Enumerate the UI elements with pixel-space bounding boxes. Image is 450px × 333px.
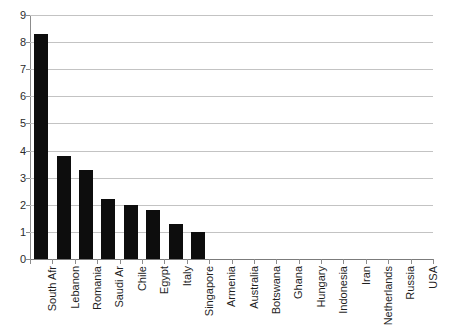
x-axis-label-slot: USA xyxy=(411,266,433,333)
y-axis-tick-label: 8 xyxy=(2,37,26,48)
bar-slot xyxy=(411,15,433,259)
bar-slot xyxy=(209,15,231,259)
y-axis-tick-label: 1 xyxy=(2,226,26,237)
x-axis-tick-mark xyxy=(388,259,389,264)
x-axis-label-slot: Indonesia xyxy=(321,266,343,333)
x-axis-tick-mark xyxy=(366,259,367,264)
x-axis-tick-mark xyxy=(187,259,188,264)
bar-chart: 0123456789 South AfrLebanonRomaniaSaudi … xyxy=(0,0,450,333)
x-axis-label-slot: Botswana xyxy=(254,266,276,333)
bar xyxy=(34,34,48,259)
bar xyxy=(124,205,138,259)
x-axis-label-slot: Egypt xyxy=(142,266,164,333)
bar xyxy=(169,224,183,259)
x-axis-label-slot: Chile xyxy=(120,266,142,333)
bar xyxy=(101,199,115,259)
bar-slot xyxy=(343,15,365,259)
bar-slot xyxy=(321,15,343,259)
x-axis-label-slot: Lebanon xyxy=(52,266,74,333)
x-axis-label-slot: Ghana xyxy=(276,266,298,333)
x-axis-label-slot: Romania xyxy=(75,266,97,333)
bar-slot xyxy=(388,15,410,259)
y-axis-tick-label: 9 xyxy=(2,10,26,21)
bar-slot xyxy=(142,15,164,259)
bar-slot xyxy=(254,15,276,259)
x-axis-tick-mark xyxy=(75,259,76,264)
bar-series xyxy=(30,15,433,259)
x-axis-tick-mark xyxy=(120,259,121,264)
y-axis-tick-label: 3 xyxy=(2,172,26,183)
bar-slot xyxy=(52,15,74,259)
x-axis-tick-mark xyxy=(299,259,300,264)
bar-slot xyxy=(366,15,388,259)
y-axis-tick-label: 0 xyxy=(2,254,26,265)
y-axis-tick-label: 2 xyxy=(2,199,26,210)
x-axis-tick-mark xyxy=(209,259,210,264)
x-axis-label-slot: Australia xyxy=(232,266,254,333)
plot-area xyxy=(30,15,433,259)
bar-slot xyxy=(75,15,97,259)
x-axis-label-slot: Italy xyxy=(164,266,186,333)
y-axis-tick-label: 5 xyxy=(2,118,26,129)
x-axis-tick-mark xyxy=(321,259,322,264)
y-axis-tick-label: 4 xyxy=(2,145,26,156)
bar xyxy=(79,170,93,259)
x-axis-tick-marks xyxy=(30,259,433,265)
y-axis-tick-label: 6 xyxy=(2,91,26,102)
x-axis-label-slot: Iran xyxy=(343,266,365,333)
x-axis-label-slot: Armenia xyxy=(209,266,231,333)
bar-slot xyxy=(276,15,298,259)
x-axis-tick-mark xyxy=(164,259,165,264)
bar-slot xyxy=(164,15,186,259)
bar-slot xyxy=(232,15,254,259)
x-axis-label-slot: Russia xyxy=(388,266,410,333)
x-axis-label-slot: South Afr xyxy=(30,266,52,333)
x-axis-label-slot: Singapore xyxy=(187,266,209,333)
bar-slot xyxy=(299,15,321,259)
x-axis-label-slot: Saudi Ar xyxy=(97,266,119,333)
x-axis-tick-mark xyxy=(254,259,255,264)
x-axis-tick-mark xyxy=(30,259,31,264)
x-axis-tick-mark xyxy=(433,259,434,264)
bar-slot xyxy=(120,15,142,259)
y-axis-tick-label: 7 xyxy=(2,64,26,75)
x-axis-tick-label: USA xyxy=(427,266,438,289)
bar xyxy=(146,210,160,259)
x-axis-tick-labels: South AfrLebanonRomaniaSaudi ArChileEgyp… xyxy=(30,266,433,333)
x-axis-tick-mark xyxy=(411,259,412,264)
x-axis-label-slot: Netherlands xyxy=(366,266,388,333)
bar-slot xyxy=(30,15,52,259)
x-axis-tick-mark xyxy=(52,259,53,264)
bar-slot xyxy=(187,15,209,259)
x-axis-tick-mark xyxy=(142,259,143,264)
x-axis-label-slot: Hungary xyxy=(299,266,321,333)
x-axis-tick-mark xyxy=(232,259,233,264)
x-axis-tick-mark xyxy=(343,259,344,264)
x-axis-tick-mark xyxy=(276,259,277,264)
bar xyxy=(57,156,71,259)
y-axis-tick-labels: 0123456789 xyxy=(0,15,26,259)
x-axis-tick-mark xyxy=(97,259,98,264)
bar xyxy=(191,232,205,259)
bar-slot xyxy=(97,15,119,259)
